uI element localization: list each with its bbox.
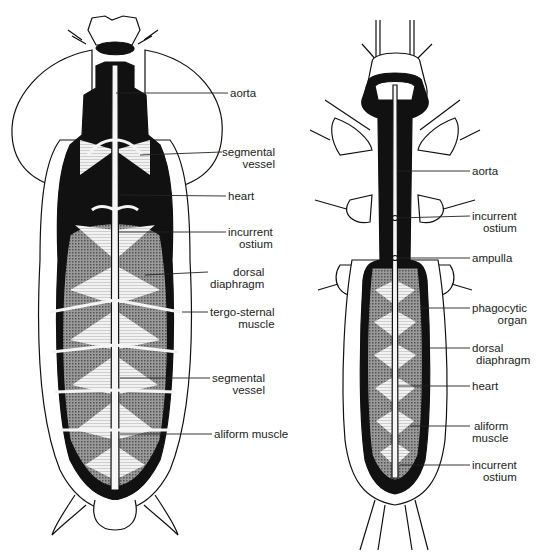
label-ampulla: ampulla: [472, 252, 512, 264]
label-dorsal-diaphragm-right: dorsal diaphragm: [472, 342, 530, 366]
anatomical-figure: aorta segmental vessel heart incurrent o…: [0, 0, 548, 553]
label-phagocytic-organ: phagocytic organ: [472, 302, 527, 326]
label-aliform-muscle-right: aliform muscle: [472, 420, 508, 444]
left-specimen: [12, 16, 222, 535]
label-aorta-right: aorta: [472, 165, 498, 177]
label-aorta-left: aorta: [230, 87, 256, 99]
label-incurrent-ostium-left: incurrent ostium: [228, 226, 273, 250]
label-heart-left: heart: [228, 190, 254, 202]
label-heart-right: heart: [472, 380, 498, 392]
diagram-drawing: [0, 0, 548, 553]
label-incurrent-ostium-upper: incurrent ostium: [472, 210, 517, 234]
right-specimen: [310, 20, 480, 550]
label-tergo-sternal-muscle: tergo-sternal muscle: [210, 306, 275, 330]
label-segmental-vessel-upper: segmental vessel: [222, 146, 275, 170]
label-incurrent-ostium-lower: incurrent ostium: [472, 459, 517, 483]
label-dorsal-diaphragm-left: dorsal diaphragm: [210, 266, 264, 290]
label-segmental-vessel-lower: segmental vessel: [212, 372, 265, 396]
label-aliform-muscle-left: aliform muscle: [214, 428, 288, 440]
